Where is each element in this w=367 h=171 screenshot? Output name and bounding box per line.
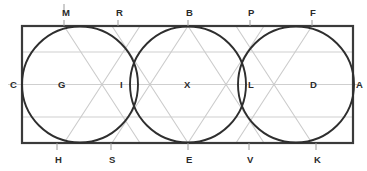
bottom-point-labels: HSEVK (55, 154, 321, 165)
label-h: H (55, 154, 62, 165)
geometry-figure: MRBPF HSEVK CGIXLDA (0, 0, 367, 171)
top-point-labels: MRBPF (62, 7, 316, 18)
label-r: R (116, 7, 123, 18)
geometry-canvas: MRBPF HSEVK CGIXLDA (0, 0, 367, 171)
label-m: M (62, 7, 70, 18)
label-l: L (248, 79, 254, 90)
label-a: A (356, 79, 363, 90)
label-s: S (109, 154, 116, 165)
label-p: P (248, 7, 255, 18)
label-k: K (314, 154, 321, 165)
label-v: V (247, 154, 254, 165)
label-d: D (310, 79, 317, 90)
label-f: F (310, 7, 316, 18)
middle-point-labels: CGIXLDA (10, 79, 363, 90)
label-e: E (186, 154, 193, 165)
label-g: G (58, 79, 66, 90)
label-c: C (10, 79, 17, 90)
label-b: B (186, 7, 193, 18)
label-x: X (184, 79, 191, 90)
label-i: I (120, 79, 123, 90)
